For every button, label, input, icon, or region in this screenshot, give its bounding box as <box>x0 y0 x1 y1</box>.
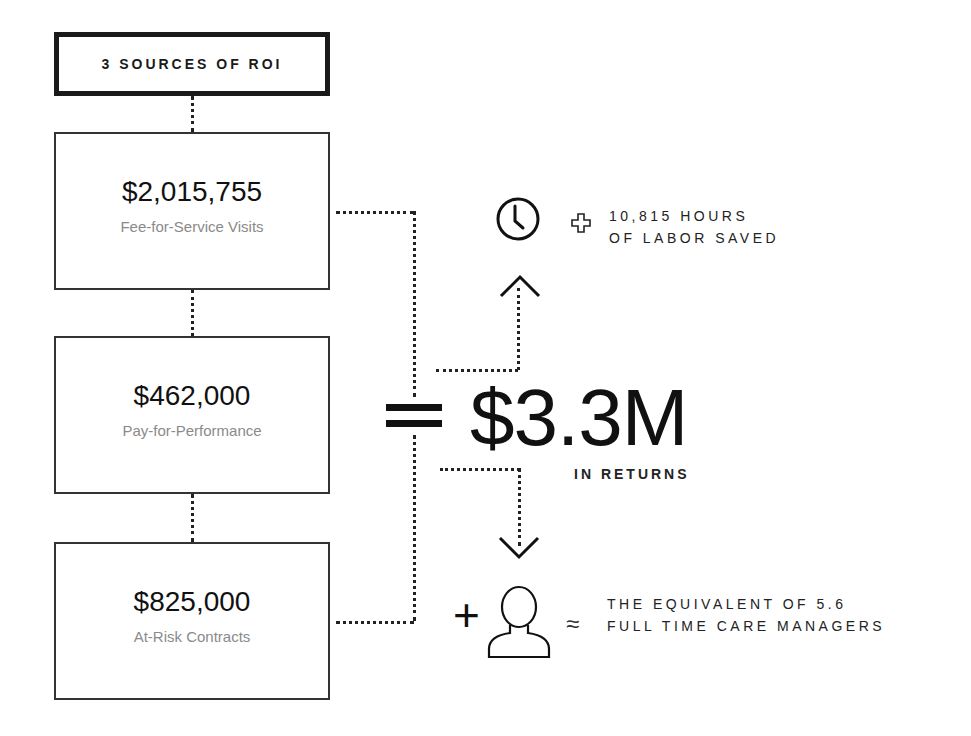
connector-bracket-upper <box>413 211 416 397</box>
source-box-at-risk-contracts: $825,000 At-Risk Contracts <box>54 542 330 700</box>
source-label: Fee-for-Service Visits <box>56 218 328 235</box>
title-text: 3 SOURCES OF ROI <box>101 56 282 72</box>
source-amount: $825,000 <box>56 586 328 618</box>
connector-down-vertical <box>518 468 521 546</box>
connector-bracket-lower <box>413 435 416 621</box>
source-label: At-Risk Contracts <box>56 628 328 645</box>
benefit-managers-text: THE EQUIVALENT OF 5.6 FULL TIME CARE MAN… <box>607 593 885 637</box>
connector-box2-to-box3 <box>191 494 194 542</box>
total-value: $3.3M <box>470 378 687 458</box>
benefit-hours-line2: OF LABOR SAVED <box>609 227 779 249</box>
clock-icon <box>495 196 541 242</box>
connector-branch-up <box>436 369 518 372</box>
chevron-up-icon <box>499 274 541 298</box>
connector-branch-down <box>440 468 520 471</box>
benefit-managers-line1: THE EQUIVALENT OF 5.6 <box>607 593 885 615</box>
benefit-managers-line2: FULL TIME CARE MANAGERS <box>607 615 885 637</box>
source-box-fee-for-service: $2,015,755 Fee-for-Service Visits <box>54 132 330 290</box>
connector-title-to-box1 <box>191 96 194 132</box>
source-amount: $462,000 <box>56 380 328 412</box>
total-caption: IN RETURNS <box>574 466 690 482</box>
approx-icon: ≈ <box>566 612 579 636</box>
connector-box3-right <box>336 621 414 624</box>
source-amount: $2,015,755 <box>56 176 328 208</box>
chevron-down-icon <box>498 536 540 560</box>
person-icon <box>486 585 552 659</box>
benefit-hours-line1: 10,815 HOURS <box>609 205 779 227</box>
source-label: Pay-for-Performance <box>56 422 328 439</box>
connector-box1-to-box2 <box>191 290 194 336</box>
source-box-pay-for-performance: $462,000 Pay-for-Performance <box>54 336 330 494</box>
title-box: 3 SOURCES OF ROI <box>54 32 330 96</box>
connector-up-vertical <box>517 288 520 370</box>
plus-outline-icon <box>571 213 591 233</box>
connector-box1-right <box>336 211 414 214</box>
equals-sign <box>386 404 442 436</box>
plus-sign: + <box>453 592 480 638</box>
benefit-hours-text: 10,815 HOURS OF LABOR SAVED <box>609 205 779 249</box>
